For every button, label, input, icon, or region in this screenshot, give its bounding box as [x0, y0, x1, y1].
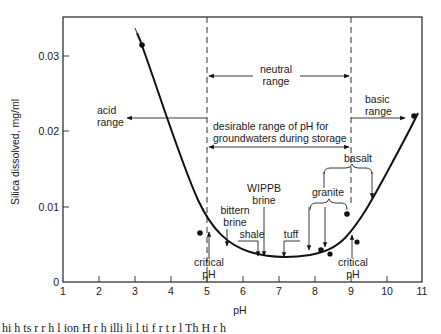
acid-range-label-2: range — [97, 116, 124, 128]
bittern-brine-label-1: bittern — [220, 204, 249, 216]
x-tick-label: 11 — [417, 285, 428, 297]
x-axis-title: pH — [233, 304, 246, 316]
y-tick-label: 0.01 — [39, 201, 60, 213]
critical-ph-left-label-2: pH — [202, 268, 215, 280]
neutral-range-annotation: neutral range — [209, 63, 349, 87]
critical-ph-left-annotation: critical pH — [194, 232, 224, 280]
basic-range-label-1: basic — [365, 93, 390, 105]
x-tick-label: 8 — [312, 285, 318, 297]
data-point — [344, 211, 350, 217]
data-point — [197, 230, 203, 236]
silica-solubility-chart: 1 2 3 4 5 6 7 8 9 10 11 0 0.01 0.02 0.03… — [0, 0, 441, 334]
tuff-label: tuff — [284, 228, 298, 240]
x-tick-label: 1 — [60, 285, 66, 297]
acid-range-label-1: acid — [97, 104, 116, 116]
data-point — [354, 239, 359, 244]
x-tick-label: 10 — [381, 285, 393, 297]
x-tick-label: 9 — [348, 285, 354, 297]
tuff-annotation: tuff — [284, 228, 300, 257]
acid-range-annotation: acid range — [97, 104, 207, 128]
granite-brace — [310, 199, 347, 210]
desirable-range-annotation: desirable range of pH for groundwaters d… — [209, 120, 349, 147]
critical-ph-right-annotation: critical pH — [338, 235, 368, 280]
y-axis-title: Silica dissolved, mg/ml — [9, 99, 21, 205]
x-tick-label: 6 — [240, 285, 246, 297]
basalt-label: basalt — [344, 152, 372, 164]
wippb-brine-label-2: brine — [252, 194, 276, 206]
critical-ph-left-label-1: critical — [194, 256, 224, 268]
y-tick-label: 0.02 — [39, 125, 60, 137]
neutral-range-label-2: range — [263, 75, 290, 87]
neutral-range-label-1: neutral — [260, 63, 292, 75]
wippb-brine-annotation: WIPPB brine — [247, 182, 281, 256]
data-point — [139, 42, 145, 48]
x-axis-ticks — [99, 276, 387, 282]
x-tick-label: 7 — [276, 285, 282, 297]
critical-ph-right-label-1: critical — [338, 256, 368, 268]
basic-range-label-2: range — [365, 105, 392, 117]
y-axis-ticks — [63, 56, 69, 207]
granite-label: granite — [312, 186, 344, 198]
y-axis-tick-labels: 0 0.01 0.02 0.03 — [39, 50, 60, 288]
y-tick-label: 0 — [53, 276, 59, 288]
wippb-brine-label-1: WIPPB — [247, 182, 281, 194]
x-axis-tick-labels: 1 2 3 4 5 6 7 8 9 10 11 — [60, 285, 428, 297]
basalt-brace — [324, 164, 372, 174]
curve-dashed-start — [135, 28, 137, 33]
x-tick-label: 4 — [168, 285, 174, 297]
critical-ph-right-label-2: pH — [346, 268, 359, 280]
plot-frame — [63, 17, 422, 282]
data-point — [327, 251, 332, 256]
y-tick-label: 0.03 — [39, 50, 60, 62]
desirable-range-label-2: groundwaters during storage — [213, 132, 347, 144]
desirable-range-label-1: desirable range of pH for — [213, 120, 329, 132]
figure-caption-fragment: hi h ts r r h l ion H r h illi li l ti f… — [2, 321, 226, 334]
x-tick-label: 2 — [96, 285, 102, 297]
x-tick-label: 3 — [132, 285, 138, 297]
data-point — [318, 247, 324, 253]
shale-label: shale — [239, 228, 264, 240]
bittern-brine-label-2: brine — [223, 216, 247, 228]
x-tick-label: 5 — [204, 285, 210, 297]
basic-range-annotation: basic range — [351, 93, 405, 118]
data-point — [411, 113, 417, 119]
